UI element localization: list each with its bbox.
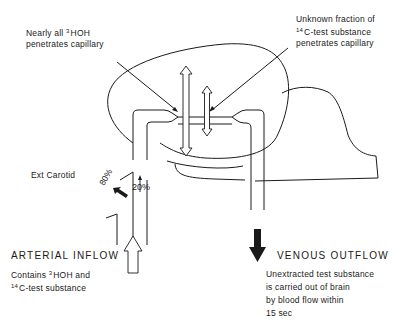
ext-carotid-lower <box>106 214 117 245</box>
arterial-line1-prefix: Contains <box>11 270 49 280</box>
cerebrum-base <box>167 161 243 168</box>
pointer-hoh <box>117 62 176 110</box>
brain-fraction-label: 20% <box>132 182 150 192</box>
c14-compound: C-test substance <box>304 27 371 37</box>
hoh-diffusion-arrow <box>180 66 192 156</box>
pointer-c14 <box>212 48 288 110</box>
hoh-compound: HOH <box>71 28 91 38</box>
arterial-line1-compound: HOH and <box>53 270 90 280</box>
arterial-inflow-heading: ARTERIAL INFLOW <box>11 250 119 261</box>
arterial-line2: C-test substance <box>19 283 86 293</box>
c14-line1: Unknown fraction of <box>296 14 375 24</box>
ext-carotid-fraction-label: 80% <box>97 167 114 187</box>
venous-line-1: Unextracted test substance <box>266 269 374 279</box>
tritium-superscript: 3 <box>66 28 70 34</box>
hoh-annotation: Nearly all 3HOH penetrates capillary <box>26 26 104 50</box>
arterial-inflow-description: Contains 3HOH and 14C-test substance <box>11 268 90 294</box>
cerebellum-outline <box>255 87 378 181</box>
venous-outflow-description: Unextracted test substance is carried ou… <box>266 268 374 320</box>
hoh-line2: penetrates capillary <box>26 39 104 49</box>
carbon14-superscript: 14 <box>11 283 18 289</box>
venous-line-3: by blood flow within <box>266 295 344 305</box>
venous-outflow-heading: VENOUS OUTFLOW <box>277 250 389 261</box>
c14-annotation: Unknown fraction of 14C-test substance p… <box>296 14 375 49</box>
carbon14-superscript: 14 <box>296 27 303 33</box>
capillary-loop-inner <box>147 117 251 210</box>
arterial-inflow-arrow <box>124 236 142 273</box>
tritium-superscript: 3 <box>49 270 53 276</box>
venous-line-4: 15 sec <box>266 308 292 318</box>
venous-outflow-arrow <box>249 229 266 262</box>
hoh-line1-prefix: Nearly all <box>26 28 66 38</box>
ext-carotid-label: Ext Carotid <box>31 170 75 181</box>
ext-carotid-flow-arrow <box>113 187 128 198</box>
brainstem-curve <box>175 164 245 180</box>
venous-line-2: is carried out of brain <box>266 282 350 292</box>
capillary-loop-outer <box>133 110 264 210</box>
c14-line3: penetrates capillary <box>296 38 374 48</box>
cerebrum-outline <box>108 44 289 159</box>
